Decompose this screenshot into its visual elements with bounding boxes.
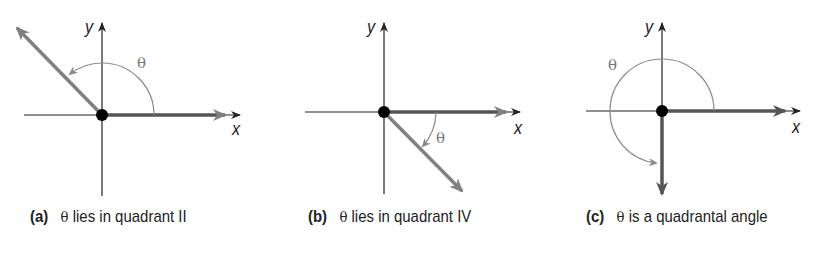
caption-theta: θ — [61, 208, 69, 226]
theta-label: θ — [436, 131, 445, 146]
terminal-side — [384, 112, 462, 191]
caption-text: is a quadrantal angle — [625, 207, 768, 226]
caption-tag: (c) — [586, 207, 604, 226]
theta-label: θ — [137, 56, 146, 71]
theta-label: θ — [608, 58, 617, 73]
y-axis-label: y — [85, 17, 93, 36]
panel-b: y x θ (b)θ lies in quadrant IV — [280, 0, 560, 256]
caption-tag: (a) — [30, 207, 48, 226]
caption-tag: (b) — [308, 207, 327, 226]
x-axis-label: x — [792, 117, 800, 136]
caption-text: lies in quadrant II — [69, 207, 187, 226]
origin-point — [656, 105, 668, 117]
x-axis-label: x — [514, 118, 522, 137]
caption-b: (b)θ lies in quadrant IV — [308, 207, 471, 227]
panel-a: y x θ (a)θ lies in quadrant II — [0, 0, 280, 256]
caption-theta: θ — [339, 208, 347, 226]
x-axis-label: x — [232, 119, 240, 138]
y-axis-label: y — [367, 17, 375, 36]
panel-c: y x θ (c)θ is a quadrantal angle — [560, 0, 834, 256]
terminal-side — [17, 28, 102, 115]
caption-text: lies in quadrant IV — [347, 207, 471, 226]
y-axis-label: y — [645, 17, 653, 36]
angle-arc — [423, 112, 436, 146]
caption-c: (c)θ is a quadrantal angle — [586, 207, 768, 227]
origin-point — [96, 109, 108, 121]
caption-theta: θ — [617, 208, 625, 226]
origin-point — [378, 106, 390, 118]
caption-a: (a)θ lies in quadrant II — [30, 207, 187, 227]
